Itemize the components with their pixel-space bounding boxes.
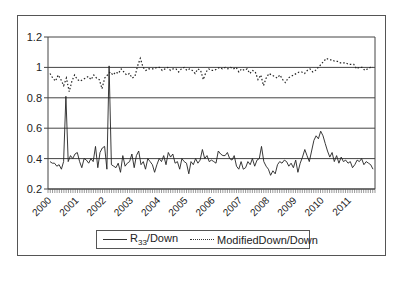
legend-item-r33: R33/Down [103,232,178,247]
x-tick-label: 2002 [84,194,108,218]
x-tick-label: 2007 [221,194,245,218]
y-tick-label: 0.4 [27,153,42,165]
x-tick-label: 2004 [139,194,163,218]
x-tick-label: 2010 [302,194,326,218]
y-tick-label: 0.8 [27,92,42,104]
y-tick-label: 1.2 [27,31,42,43]
series-modified-down-line [50,58,373,91]
y-tick-label: 0.6 [27,122,42,134]
legend: R33/Down ModifiedDown/Down [96,230,310,249]
x-tick-label: 2011 [330,194,353,217]
legend-label-r33: R33/Down [130,232,178,247]
x-tick-label: 2006 [193,194,217,218]
dotted-line-swatch-icon [190,239,214,240]
x-tick-label: 2005 [166,194,190,218]
legend-label-modified: ModifiedDown/Down [217,234,318,246]
x-tick-label: 2000 [30,194,54,218]
x-tick-label: 2008 [248,194,272,218]
x-tick-label: 2003 [112,194,136,218]
x-tick-label: 2001 [57,194,81,218]
y-tick-label: 1 [36,61,42,73]
y-tick-label: 0.2 [27,183,42,195]
solid-line-swatch-icon [103,239,127,240]
legend-item-modified: ModifiedDown/Down [190,234,318,246]
x-tick-label: 2009 [275,194,299,218]
